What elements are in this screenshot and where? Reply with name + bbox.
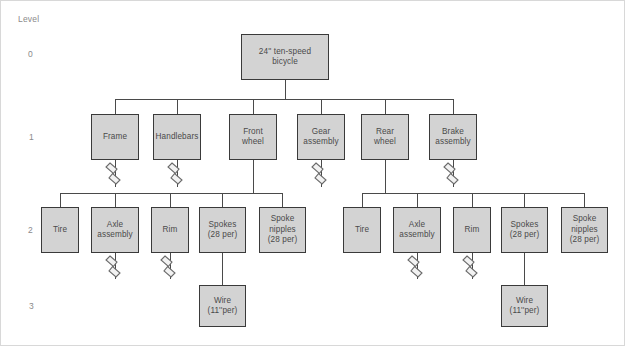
node-rw-axle[interactable]: Axle assembly: [393, 207, 441, 253]
node-label: Gear assembly: [302, 127, 339, 148]
node-rear-wheel[interactable]: Rear wheel: [361, 114, 409, 160]
break-squiggle-icon: [463, 256, 477, 277]
node-rw-rim[interactable]: Rim: [453, 207, 491, 253]
node-label: Tire: [354, 225, 370, 236]
diagram-canvas: Level 0 1 2 3: [0, 0, 625, 346]
node-frame[interactable]: Frame: [91, 114, 139, 160]
node-label: Spokes (28 per): [207, 220, 238, 241]
node-label: Wire (11''per): [509, 296, 541, 317]
node-rw-tire[interactable]: Tire: [343, 207, 381, 253]
node-label: Tire: [52, 225, 68, 236]
node-label: Spokes (28 per): [509, 220, 540, 241]
node-fw-wire[interactable]: Wire (11''per): [199, 285, 246, 327]
node-label: Brake assembly: [434, 127, 471, 148]
node-front-wheel[interactable]: Front wheel: [229, 114, 277, 160]
node-root[interactable]: 24'' ten-speed bicycle: [241, 34, 329, 80]
node-label: Front wheel: [241, 127, 265, 148]
node-label: Handlebars: [155, 132, 200, 143]
node-label: Axle assembly: [398, 220, 435, 241]
node-fw-rim[interactable]: Rim: [151, 207, 189, 253]
node-label: 24'' ten-speed bicycle: [258, 47, 312, 68]
break-squiggle-icon: [312, 163, 326, 184]
node-label: Wire (11''per): [207, 296, 239, 317]
break-squiggle-icon: [408, 256, 422, 277]
node-rw-spokes[interactable]: Spokes (28 per): [501, 207, 548, 253]
node-label: Rim: [464, 225, 481, 236]
node-label: Spoke nipples (28 per): [569, 214, 600, 246]
break-squiggle-icon: [161, 256, 175, 277]
node-label: Frame: [102, 132, 128, 143]
break-squiggle-icon: [168, 163, 182, 184]
node-fw-axle[interactable]: Axle assembly: [91, 207, 139, 253]
node-handlebars[interactable]: Handlebars: [153, 114, 201, 160]
break-squiggle-icon: [106, 163, 120, 184]
node-label: Axle assembly: [96, 220, 133, 241]
node-fw-tire[interactable]: Tire: [41, 207, 79, 253]
node-fw-nipples[interactable]: Spoke nipples (28 per): [259, 207, 306, 253]
node-gear-assembly[interactable]: Gear assembly: [297, 114, 345, 160]
node-brake-assembly[interactable]: Brake assembly: [429, 114, 477, 160]
break-squiggle-icon: [106, 256, 120, 277]
node-label: Rim: [162, 225, 179, 236]
break-squiggle-icon: [444, 163, 458, 184]
node-rw-wire[interactable]: Wire (11''per): [501, 285, 548, 327]
node-rw-nipples[interactable]: Spoke nipples (28 per): [561, 207, 608, 253]
node-label: Spoke nipples (28 per): [267, 214, 298, 246]
node-label: Rear wheel: [373, 127, 397, 148]
node-fw-spokes[interactable]: Spokes (28 per): [199, 207, 246, 253]
